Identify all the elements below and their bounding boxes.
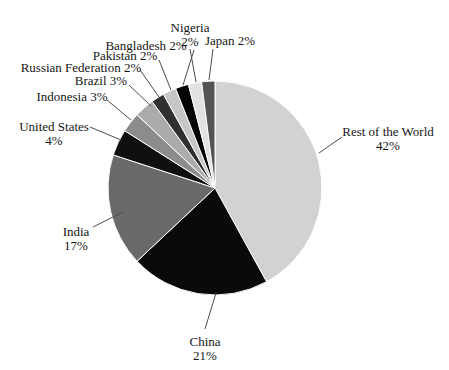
leader-line-indonesia (107, 100, 131, 120)
slice-label-line: China (189, 334, 220, 349)
slice-label-line: Bangladesh 2% (105, 38, 186, 53)
slice-label-line: 2% (181, 34, 199, 49)
population-pie-chart-figure: Rest of the World42%China21%India17%Unit… (0, 0, 449, 370)
slice-label-united-states: United States4% (19, 119, 89, 148)
slice-label-india: India17% (63, 224, 90, 253)
leader-line-united-states (90, 127, 121, 140)
slice-label-line: Indonesia 3% (36, 89, 107, 104)
leader-line-russian-federation (140, 70, 159, 97)
slice-label-line: Nigeria (171, 20, 210, 35)
leader-line-china (205, 293, 216, 329)
slice-label-line: 4% (45, 133, 63, 148)
leader-line-japan (209, 49, 213, 80)
slice-label-line: 42% (376, 138, 400, 153)
slice-label-bangladesh: Bangladesh 2% (105, 38, 186, 53)
slice-label-japan: Japan 2% (205, 33, 255, 48)
slice-label-line: Brazil 3% (75, 73, 128, 88)
leader-line-bangladesh (183, 50, 194, 85)
leader-line-pakistan (159, 60, 171, 90)
leader-line-brazil (129, 85, 151, 106)
slice-label-line: 21% (193, 348, 217, 363)
slice-label-indonesia: Indonesia 3% (36, 89, 107, 104)
slice-label-line: Rest of the World (342, 124, 434, 139)
pie-chart-canvas: Rest of the World42%China21%India17%Unit… (0, 0, 449, 370)
leader-line-rest-of-the-world (319, 137, 342, 153)
slice-label-line: Japan 2% (205, 33, 255, 48)
slice-label-rest-of-the-world: Rest of the World42% (342, 124, 434, 153)
slice-label-china: China21% (189, 334, 220, 363)
slice-label-brazil: Brazil 3% (75, 73, 128, 88)
slice-label-line: 17% (64, 238, 88, 253)
slice-label-line: United States (19, 119, 89, 134)
slice-label-line: India (63, 224, 90, 239)
